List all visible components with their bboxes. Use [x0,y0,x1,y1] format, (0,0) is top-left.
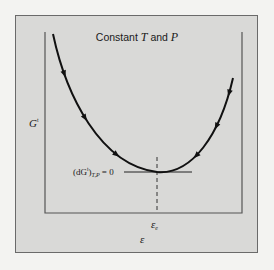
y-axis-label: Gt [29,117,39,129]
equilibrium-tick-label: εe [151,218,158,231]
x-axis-label: ε [140,233,144,245]
gibbs-curve [53,34,233,172]
direction-arrow-right-2 [212,122,220,131]
equilibrium-condition-label: (dGt)T,P = 0 [73,166,114,178]
axes-box [45,32,242,213]
diagram-title: Constant T and P [0,30,274,45]
